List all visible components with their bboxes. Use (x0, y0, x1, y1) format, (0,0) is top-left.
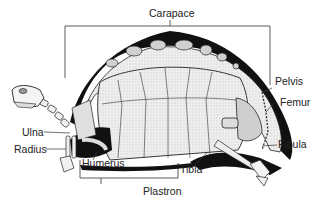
label-femur: Femur (280, 97, 310, 108)
label-ulna: Ulna (22, 127, 44, 138)
eye-orbit (19, 89, 27, 94)
neck-vertebrae (39, 99, 70, 128)
label-humerus: Humerus (82, 158, 125, 169)
fore-foot (60, 156, 74, 172)
turtle-skeleton-illustration (0, 0, 321, 204)
label-fibula: Fibula (278, 139, 307, 150)
label-pelvis: Pelvis (275, 76, 303, 87)
label-plastron: Plastron (143, 186, 182, 197)
label-radius: Radius (14, 144, 47, 155)
label-carapace: Carapace (149, 8, 195, 19)
femur-bone (222, 118, 238, 128)
label-tibia: Tibia (180, 164, 202, 175)
